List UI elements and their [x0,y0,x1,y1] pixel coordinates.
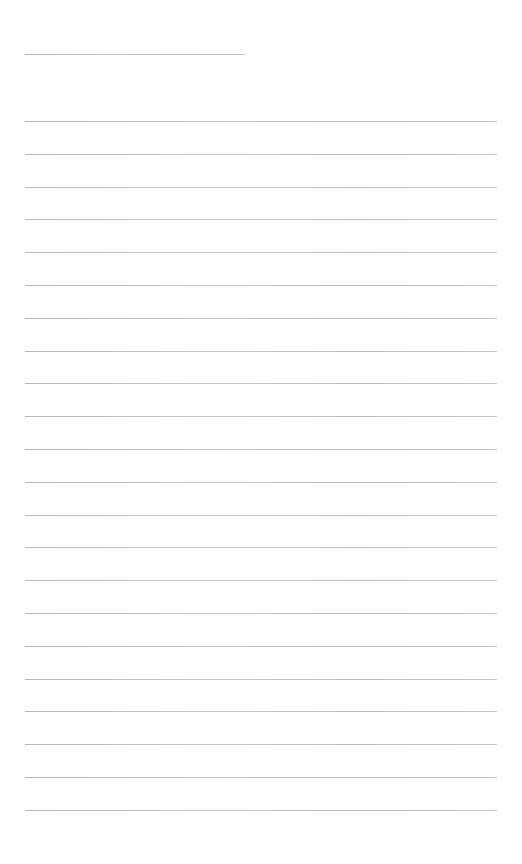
ruled-line [25,744,497,745]
ruled-line [25,580,497,581]
ruled-line [25,416,497,417]
ruled-line [25,679,497,680]
ruled-line [25,154,497,155]
ruled-line [25,383,497,384]
ruled-line [25,613,497,614]
ruled-line [25,482,497,483]
ruled-line [25,711,497,712]
ruled-line [25,547,497,548]
ruled-line [25,646,497,647]
ruled-line [25,318,497,319]
ruled-line [25,449,497,450]
ruled-line [25,777,497,778]
title-line [25,54,245,55]
ruled-line [25,219,497,220]
ruled-line [25,252,497,253]
ruled-line [25,121,497,122]
ruled-line [25,810,497,811]
ruled-line [25,515,497,516]
ruled-line [25,351,497,352]
ruled-line [25,187,497,188]
ruled-line [25,285,497,286]
